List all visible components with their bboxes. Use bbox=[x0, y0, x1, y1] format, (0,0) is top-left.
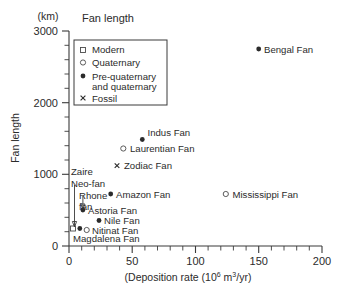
legend-label-modern: Modern bbox=[92, 44, 125, 55]
point-label-zaire: Zaire bbox=[71, 166, 93, 177]
data-point-indus-fan: Indus Fan bbox=[140, 127, 190, 142]
y-axis-unit-label: (km) bbox=[38, 10, 59, 22]
point-label-rhone-fan-line2: fan bbox=[79, 201, 92, 212]
y-tick-label-0: 0 bbox=[52, 240, 58, 252]
marker-cross bbox=[115, 163, 120, 168]
x-tick-label-150: 150 bbox=[250, 255, 268, 267]
legend-marker-prequaternary-filled-circle-icon bbox=[81, 74, 86, 79]
marker-filled-circle bbox=[140, 137, 145, 142]
y-axis-major-ticks bbox=[62, 31, 69, 246]
marker-filled-circle bbox=[77, 226, 82, 231]
marker-open-circle bbox=[121, 146, 126, 151]
data-point-zodiac-fan: Zodiac Fan bbox=[115, 160, 172, 171]
legend-marker-quaternary-open-circle-icon bbox=[80, 60, 85, 65]
y-tick-label-2000: 2000 bbox=[34, 97, 58, 109]
point-label-laurentian-fan: Laurentian Fan bbox=[130, 143, 195, 154]
marker-filled-circle bbox=[97, 218, 102, 223]
data-point-amazon-fan: Amazon Fan bbox=[108, 189, 170, 200]
point-label-indus-fan: Indus Fan bbox=[148, 127, 191, 138]
legend: Modern Quaternary Pre-quaternary and qua… bbox=[74, 40, 167, 105]
legend-marker-modern-open-square-icon bbox=[81, 48, 86, 53]
x-tick-label-100: 100 bbox=[186, 255, 204, 267]
legend-label-fossil: Fossil bbox=[92, 93, 117, 104]
x-axis-title-mid: m bbox=[221, 271, 233, 283]
point-label-rhone: Rhone bbox=[79, 190, 107, 201]
point-label-magdalena-fan: Magdalena Fan bbox=[73, 233, 140, 244]
x-axis-title: (Deposition rate (106 m3/yr) bbox=[125, 271, 252, 283]
x-tick-label-0: 0 bbox=[66, 255, 72, 267]
point-label-mississippi-fan: Mississippi Fan bbox=[233, 189, 299, 200]
y-tick-label-1000: 1000 bbox=[34, 168, 58, 180]
marker-open-circle bbox=[84, 227, 89, 232]
point-label-amazon-fan: Amazon Fan bbox=[116, 189, 170, 200]
data-point-mississippi-fan: Mississippi Fan bbox=[223, 189, 298, 200]
x-axis-title-post: /yr) bbox=[236, 271, 251, 283]
legend-label-quaternary: Quaternary bbox=[92, 57, 140, 68]
y-axis-minor-ticks bbox=[65, 45, 70, 231]
data-point-laurentian-fan: Laurentian Fan bbox=[121, 143, 195, 154]
x-tick-label-200: 200 bbox=[313, 255, 331, 267]
y-tick-label-3000: 3000 bbox=[34, 25, 58, 37]
legend-label-prequaternary-line2: and quaternary bbox=[92, 81, 157, 92]
marker-open-circle bbox=[223, 191, 228, 196]
y-axis-title: Fan length bbox=[9, 113, 21, 163]
chart-figure: 0 1000 2000 3000 0 50 100 150 200 (km) F… bbox=[0, 0, 347, 293]
point-label-neofan: Neo-fan bbox=[71, 178, 105, 189]
point-label-bengal-fan: Bengal Fan bbox=[264, 44, 313, 55]
x-tick-label-50: 50 bbox=[126, 255, 138, 267]
chart-title: Fan length bbox=[82, 12, 134, 24]
x-axis-title-pre: (Deposition rate (10 bbox=[125, 271, 217, 283]
scatter-plot: 0 1000 2000 3000 0 50 100 150 200 (km) F… bbox=[0, 0, 347, 293]
data-point-bengal-fan: Bengal Fan bbox=[256, 44, 313, 55]
point-label-astoria-fan: Astoria Fan bbox=[88, 205, 137, 216]
marker-filled-circle bbox=[256, 47, 261, 52]
legend-label-prequaternary: Pre-quaternary bbox=[92, 71, 156, 82]
point-label-zodiac-fan: Zodiac Fan bbox=[124, 160, 172, 171]
marker-filled-circle bbox=[108, 192, 113, 197]
